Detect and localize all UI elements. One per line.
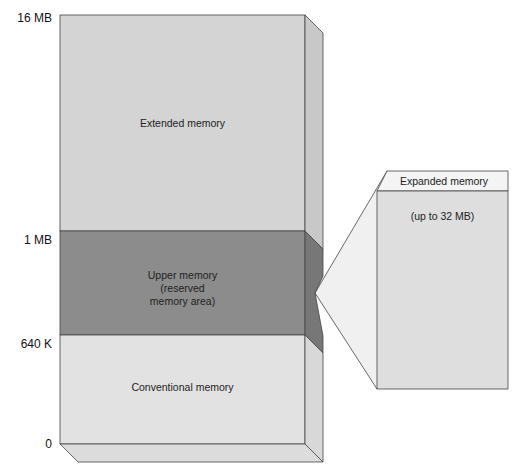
upper-line-2: (reserved bbox=[60, 282, 305, 295]
expanded-memory-header: Expanded memory bbox=[380, 175, 508, 188]
conventional-side-face bbox=[305, 335, 323, 462]
mapping-wedge bbox=[315, 171, 387, 389]
extended-memory-label: Extended memory bbox=[60, 117, 305, 130]
expanded-memory-note: (up to 32 MB) bbox=[377, 210, 508, 223]
label-16mb: 16 MB bbox=[2, 11, 52, 25]
label-0: 0 bbox=[2, 437, 52, 451]
bottom-face bbox=[60, 444, 323, 462]
upper-line-3: memory area) bbox=[60, 295, 305, 308]
memory-diagram bbox=[0, 0, 522, 470]
extended-side-face bbox=[305, 15, 323, 249]
upper-line-1: Upper memory bbox=[60, 269, 305, 282]
conventional-memory-label: Conventional memory bbox=[60, 381, 305, 394]
upper-memory-label: Upper memory (reserved memory area) bbox=[60, 269, 305, 308]
label-1mb: 1 MB bbox=[2, 233, 52, 247]
label-640k: 640 K bbox=[2, 337, 52, 351]
